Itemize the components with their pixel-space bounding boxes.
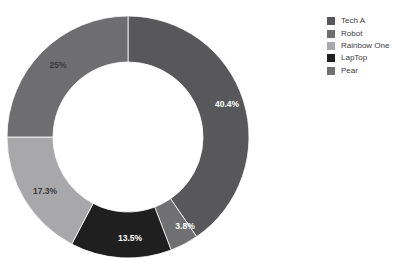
legend-swatch-icon	[327, 67, 335, 75]
legend-item-label: LapTop	[341, 54, 367, 62]
slice-value-label: 17.3%	[33, 186, 58, 196]
legend-swatch-icon	[327, 30, 335, 38]
legend-item[interactable]: LapTop	[327, 52, 405, 64]
legend-item[interactable]: Robot	[327, 27, 405, 39]
slice-value-label: 13.5%	[118, 233, 143, 243]
legend-item[interactable]: Pear	[327, 65, 405, 77]
slice-value-label: 25%	[49, 60, 66, 70]
legend-item-label: Robot	[341, 30, 362, 38]
chart-figure: 40.4%3.8%13.5%17.3%25% Tech ARobotRainbo…	[0, 0, 405, 262]
legend-item[interactable]: Rainbow One	[327, 40, 405, 52]
legend-swatch-icon	[327, 54, 335, 62]
legend-item-label: Tech A	[341, 17, 365, 25]
legend-swatch-icon	[327, 17, 335, 25]
donut-slices	[7, 16, 249, 258]
slice-value-label: 40.4%	[215, 99, 240, 109]
legend-item[interactable]: Tech A	[327, 15, 405, 27]
donut-slice[interactable]	[7, 16, 128, 137]
slice-value-label: 3.8%	[175, 221, 195, 231]
chart-legend: Tech ARobotRainbow OneLapTopPear	[327, 15, 405, 77]
legend-swatch-icon	[327, 42, 335, 50]
legend-item-label: Pear	[341, 67, 358, 75]
donut-slice[interactable]	[128, 16, 249, 237]
legend-item-label: Rainbow One	[341, 42, 389, 50]
